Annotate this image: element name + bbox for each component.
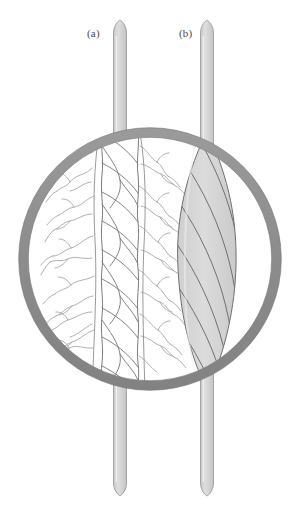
- figure-container: (a) (b): [0, 0, 300, 514]
- figure-label-b: (b): [179, 27, 192, 39]
- yarn-magnification-figure: [0, 0, 300, 514]
- magnified-spun-staple-yarn-core: [101, 128, 138, 392]
- figure-label-a: (a): [87, 27, 100, 39]
